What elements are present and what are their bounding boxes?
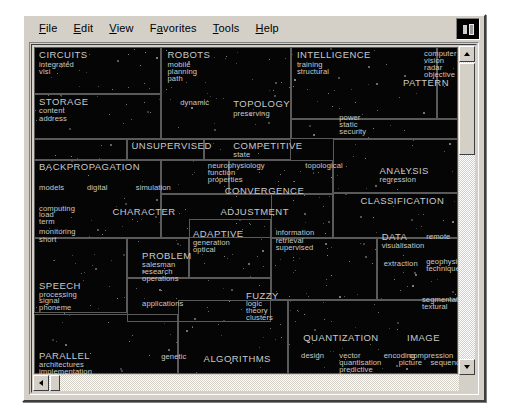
map-keyword-label[interactable]: genetic [161, 353, 186, 361]
menu-item-tools[interactable]: Tools [206, 20, 247, 36]
scroll-down-arrow-icon[interactable] [459, 359, 475, 375]
map-keyword-label[interactable]: vlsi [39, 68, 50, 76]
map-keyword-label[interactable]: properties [208, 176, 243, 184]
menu-item-favorites[interactable]: Favorites [143, 20, 204, 36]
map-cluster-title[interactable]: CLASSIFICATION [360, 196, 444, 206]
menu-item-tools-label: ools [219, 22, 240, 34]
map-cluster-title[interactable]: ADJUSTMENT [221, 207, 289, 217]
map-cluster-title[interactable]: BACKPROPAGATION [39, 162, 140, 172]
map-cluster-title[interactable]: IMAGE [407, 333, 440, 343]
client-area: CIRCUITSintegratedvlsiSTORAGEcontentaddr… [29, 42, 479, 395]
horizontal-scrollbar-thumb[interactable] [50, 375, 60, 391]
arrow-left-glyph [39, 380, 43, 386]
menu-item-edit-label: dit [81, 22, 93, 34]
map-keyword-label[interactable]: address [39, 115, 67, 123]
menu-item-file[interactable]: File [32, 20, 65, 36]
map-keyword-label[interactable]: path [168, 75, 183, 83]
map-keyword-label[interactable]: predictive [339, 366, 373, 374]
map-keyword-label[interactable]: state [233, 151, 250, 159]
map-cluster-title[interactable]: STORAGE [39, 97, 88, 107]
map-cluster-title[interactable]: ANALYSIS [380, 166, 429, 176]
map-cluster-title[interactable]: QUANTIZATION [303, 333, 378, 343]
map-keyword-label[interactable]: clusters [246, 314, 273, 322]
scrollbar-corner [459, 375, 475, 391]
menu-item-view[interactable]: View [102, 20, 140, 36]
map-keyword-label[interactable]: short [39, 236, 56, 244]
map-cluster-cell[interactable] [291, 119, 458, 139]
menu-item-edit[interactable]: Edit [67, 20, 101, 36]
map-keyword-label[interactable]: models [39, 184, 64, 192]
map-cluster-title[interactable]: INTELLIGENCE [297, 50, 371, 60]
document-map-viewport[interactable]: CIRCUITSintegratedvlsiSTORAGEcontentaddr… [34, 47, 458, 374]
map-keyword-label[interactable]: design [301, 352, 324, 360]
map-keyword-label[interactable]: security [339, 128, 366, 136]
vertical-scrollbar-thumb[interactable] [459, 63, 475, 155]
vertical-scrollbar[interactable] [459, 46, 475, 375]
map-keyword-label[interactable]: term [39, 218, 55, 226]
horizontal-scrollbar[interactable] [33, 375, 459, 391]
client-inner-frame: CIRCUITSintegratedvlsiSTORAGEcontentaddr… [31, 44, 477, 393]
menu-bar: File Edit View Favorites Tools Help [24, 16, 484, 40]
map-keyword-label[interactable]: phoneme [39, 304, 71, 312]
menu-item-help[interactable]: Help [249, 20, 286, 36]
map-keyword-label[interactable]: applications [142, 300, 183, 308]
map-cluster-title[interactable]: TOPOLOGY [233, 99, 290, 109]
map-keyword-label[interactable]: remote [426, 233, 450, 241]
arrow-up-glyph [464, 52, 470, 56]
map-cluster-cell[interactable] [34, 139, 127, 160]
arrow-down-glyph [464, 365, 470, 369]
map-keyword-label[interactable]: regression [380, 176, 416, 184]
map-cluster-title[interactable]: PATTERN [403, 78, 449, 88]
map-keyword-label[interactable]: topological [305, 162, 342, 170]
menu-item-file-label: ile [46, 22, 58, 34]
map-keyword-label[interactable]: preserving [233, 110, 269, 118]
map-keyword-label[interactable]: optical [193, 246, 216, 254]
menu-item-help-label: elp [264, 22, 279, 34]
map-keyword-label[interactable]: operations [142, 275, 178, 283]
horizontal-scrollbar-track[interactable] [33, 375, 459, 391]
application-logo-icon[interactable] [456, 18, 480, 40]
map-keyword-label[interactable]: implementation [39, 368, 92, 374]
application-window: File Edit View Favorites Tools Help CIRC… [22, 14, 486, 402]
map-cluster-title[interactable]: ALGORITHMS [204, 354, 271, 364]
map-keyword-label[interactable]: picture [399, 359, 423, 367]
map-keyword-label[interactable]: supervised [276, 244, 314, 252]
map-cluster-title[interactable]: CIRCUITS [39, 50, 87, 60]
map-keyword-label[interactable]: simulation [136, 184, 171, 192]
map-keyword-label[interactable]: dynamic [180, 99, 209, 107]
map-cluster-title[interactable]: CHARACTER [112, 207, 175, 217]
map-cluster-title[interactable]: UNSUPERVISED [132, 141, 212, 151]
map-keyword-label[interactable]: extraction [384, 260, 418, 268]
menu-item-view-label: iew [117, 22, 134, 34]
map-keyword-label[interactable]: technique [426, 265, 458, 273]
map-cluster-title[interactable]: COMPETITIVE [233, 141, 302, 151]
document-map-canvas[interactable]: CIRCUITSintegratedvlsiSTORAGEcontentaddr… [34, 47, 458, 374]
map-keyword-label[interactable]: textural [422, 303, 448, 311]
scroll-left-arrow-icon[interactable] [33, 375, 49, 391]
map-keyword-label[interactable]: digital [87, 184, 108, 192]
logo-glyph [463, 24, 474, 35]
map-cluster-title[interactable]: ROBOTS [168, 50, 211, 60]
map-keyword-label[interactable]: structural [297, 68, 329, 76]
map-cluster-title[interactable]: CONVERGENCE [225, 186, 304, 196]
menu-item-favorites-label: vorites [163, 22, 197, 34]
scroll-up-arrow-icon[interactable] [459, 46, 475, 62]
map-keyword-label[interactable]: sequence [430, 359, 458, 367]
map-keyword-label[interactable]: visualisation [382, 242, 425, 250]
